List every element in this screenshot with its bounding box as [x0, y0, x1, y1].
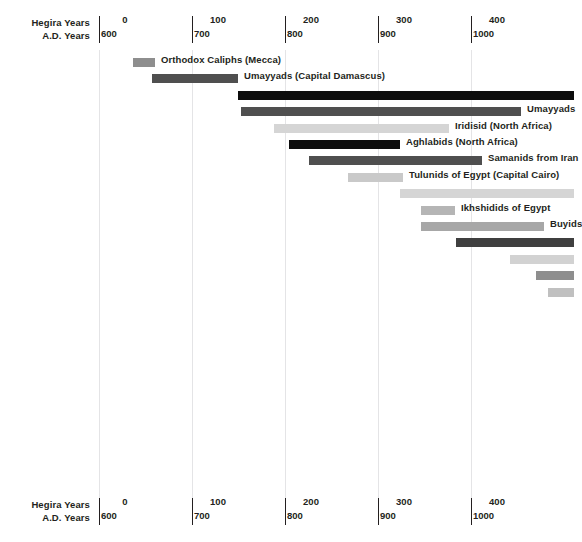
timeline-row: Aghlabids (North Africa)	[0, 138, 574, 152]
timeline-row: Ikhshidids of Egypt	[0, 204, 574, 218]
axis-top: Hegira Years A.D. Years 0600100700200800…	[0, 16, 574, 50]
plot-area: Orthodox Caliphs (Mecca)Umayyads (Capita…	[0, 50, 574, 498]
axis-bottom-hegira-label-300: 300	[381, 496, 427, 507]
timeline-bar[interactable]	[548, 288, 574, 297]
tick-mark-icon	[99, 16, 100, 43]
axis-bottom: Hegira Years A.D. Years 0600100700200800…	[0, 498, 574, 532]
tick-mark-icon	[192, 498, 193, 525]
timeline-row: Umayyads (Capital Damascus)	[0, 72, 574, 86]
axis-label-hegira-bottom: Hegira Years	[0, 498, 90, 511]
tick-mark-icon	[99, 498, 100, 525]
timeline-bar[interactable]	[309, 156, 482, 165]
timeline-bar-label: Orthodox Caliphs (Mecca)	[161, 54, 281, 65]
axis-label-ad-top: A.D. Years	[0, 29, 90, 42]
axis-bottom-ad-label-600: 600	[101, 510, 117, 521]
axis-bottom-hegira-label-100: 100	[195, 496, 241, 507]
axis-bottom-ad-label-800: 800	[287, 510, 303, 521]
timeline-row: Samanids from Iran	[0, 154, 574, 168]
timeline-bar[interactable]	[456, 238, 574, 247]
timeline-bar[interactable]	[400, 189, 574, 198]
timeline-bar[interactable]	[421, 206, 455, 215]
axis-top-ad-label-800: 800	[287, 28, 303, 39]
timeline-row	[0, 89, 574, 103]
axis-bottom-hegira-label-200: 200	[288, 496, 334, 507]
axis-bottom-ad-label-700: 700	[194, 510, 210, 521]
tick-mark-icon	[378, 16, 379, 43]
timeline-row: Tulunids of Egypt (Capital Cairo)	[0, 171, 574, 185]
tick-mark-icon	[285, 16, 286, 43]
axis-bottom-hegira-label-400: 400	[474, 496, 520, 507]
timeline-row	[0, 236, 574, 250]
axis-top-hegira-label-400: 400	[474, 14, 520, 25]
axis-bottom-ad-label-900: 900	[380, 510, 396, 521]
axis-top-ad-label-900: 900	[380, 28, 396, 39]
timeline-bar-label: Tulunids of Egypt (Capital Cairo)	[409, 169, 559, 180]
tick-mark-icon	[285, 498, 286, 525]
timeline-bar[interactable]	[274, 124, 449, 133]
timeline-row	[0, 253, 574, 267]
timeline-bar-label: Samanids from Iran	[488, 152, 579, 163]
axis-top-ad-label-700: 700	[194, 28, 210, 39]
axis-label-ad-bottom: A.D. Years	[0, 511, 90, 524]
timeline-bar-label: Umayyads	[527, 103, 575, 114]
axis-bottom-row-labels: Hegira Years A.D. Years	[0, 498, 90, 524]
axis-top-hegira-label-100: 100	[195, 14, 241, 25]
axis-top-hegira-label-0: 0	[102, 14, 148, 25]
timeline-row	[0, 286, 574, 300]
timeline-bar[interactable]	[133, 58, 155, 67]
timeline-bar[interactable]	[348, 173, 403, 182]
timeline-bar-label: Buyids	[550, 218, 582, 229]
timeline-bar-label: Aghlabids (North Africa)	[406, 136, 518, 147]
timeline-bar[interactable]	[238, 91, 574, 100]
timeline-row: Buyids	[0, 220, 574, 234]
tick-mark-icon	[378, 498, 379, 525]
axis-top-ad-label-1000: 1000	[473, 28, 494, 39]
tick-mark-icon	[471, 16, 472, 43]
timeline-bar[interactable]	[152, 74, 238, 83]
timeline-bar[interactable]	[289, 140, 400, 149]
timeline-row: Umayyads	[0, 105, 574, 119]
timeline-bar-label: Iridisid (North Africa)	[455, 120, 552, 131]
timeline-row: Orthodox Caliphs (Mecca)	[0, 56, 574, 70]
timeline-bar[interactable]	[536, 271, 574, 280]
axis-bottom-ad-label-1000: 1000	[473, 510, 494, 521]
axis-top-hegira-label-300: 300	[381, 14, 427, 25]
timeline-bar[interactable]	[510, 255, 574, 264]
timeline-row	[0, 269, 574, 283]
tick-mark-icon	[471, 498, 472, 525]
timeline-row	[0, 187, 574, 201]
timeline-bar[interactable]	[241, 107, 521, 116]
axis-top-ad-label-600: 600	[101, 28, 117, 39]
timeline-row: Iridisid (North Africa)	[0, 122, 574, 136]
timeline-bar[interactable]	[421, 222, 544, 231]
axis-bottom-hegira-label-0: 0	[102, 496, 148, 507]
axis-label-hegira-top: Hegira Years	[0, 16, 90, 29]
axis-top-hegira-label-200: 200	[288, 14, 334, 25]
axis-top-row-labels: Hegira Years A.D. Years	[0, 16, 90, 42]
timeline-bar-label: Umayyads (Capital Damascus)	[244, 70, 385, 81]
timeline-bar-label: Ikhshidids of Egypt	[461, 202, 551, 213]
tick-mark-icon	[192, 16, 193, 43]
